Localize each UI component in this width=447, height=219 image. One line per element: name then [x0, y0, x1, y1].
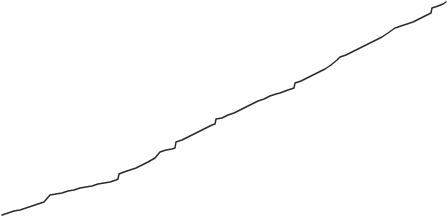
chart-background	[0, 0, 447, 219]
line-chart	[0, 0, 447, 219]
chart-canvas	[0, 0, 447, 219]
